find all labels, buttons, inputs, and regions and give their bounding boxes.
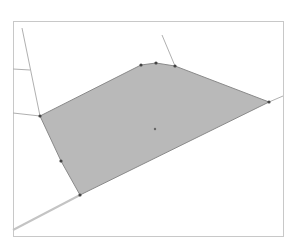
construction-line: [13, 195, 80, 230]
vertex-point[interactable]: [78, 193, 81, 196]
construction-line: [13, 113, 40, 116]
construction-line: [22, 28, 40, 116]
vertex-point[interactable]: [139, 63, 142, 66]
centroid-marker: [154, 128, 156, 130]
vertex-point[interactable]: [59, 159, 62, 162]
construction-line: [13, 69, 30, 70]
vertex-point[interactable]: [154, 61, 157, 64]
vertex-point[interactable]: [173, 64, 176, 67]
vertex-point[interactable]: [267, 100, 270, 103]
construction-line: [162, 35, 175, 66]
diagram-canvas: [0, 0, 297, 249]
construction-line: [269, 96, 283, 102]
vertex-point[interactable]: [38, 114, 41, 117]
